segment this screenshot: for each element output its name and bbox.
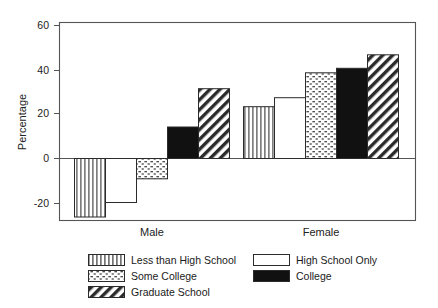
bar-male-less-than-high-school [75, 159, 106, 218]
bar-group-male [75, 89, 230, 217]
y-axis-title: Percentage [16, 94, 28, 150]
legend-swatch-dotted [89, 271, 125, 282]
bar-chart: 60 40 20 0 -20 Percentage [0, 0, 438, 308]
y-axis-ticks [54, 26, 60, 204]
legend-label-0: Less than High School [131, 254, 236, 266]
legend-item-college: College [254, 270, 332, 282]
bar-group-female [244, 55, 399, 159]
legend-item-graduate-school: Graduate School [89, 286, 210, 298]
y-tick-label-60: 60 [37, 19, 49, 31]
bar-female-college [337, 68, 368, 158]
bar-male-college [168, 127, 199, 159]
legend-item-less-than-high-school: Less than High School [89, 254, 237, 266]
legend-swatch-diagonal-hatch [89, 287, 125, 298]
bar-female-less-than-high-school [244, 107, 275, 159]
legend-label-3: High School Only [296, 254, 378, 266]
chart-legend: Less than High School Some College Gradu… [89, 254, 378, 298]
bar-female-graduate-school [368, 55, 399, 159]
bar-male-graduate-school [199, 89, 230, 159]
legend-item-high-school-only: High School Only [254, 254, 378, 266]
legend-label-1: Some College [131, 270, 197, 282]
bar-male-high-school-only [106, 159, 137, 203]
legend-swatch-white [254, 255, 290, 266]
legend-label-2: Graduate School [131, 286, 210, 298]
x-category-label-male: Male [140, 226, 164, 238]
bar-female-some-college [306, 73, 337, 159]
legend-swatch-black [254, 271, 290, 282]
legend-swatch-vertical-stripes [89, 255, 125, 266]
x-category-label-female: Female [303, 226, 340, 238]
legend-item-some-college: Some College [89, 270, 198, 282]
y-tick-label-0: 0 [43, 152, 49, 164]
chart-svg: 60 40 20 0 -20 Percentage [0, 0, 438, 308]
y-tick-label-neg20: -20 [34, 197, 49, 209]
legend-label-4: College [296, 270, 332, 282]
bar-male-some-college [137, 159, 168, 179]
y-tick-label-20: 20 [37, 107, 49, 119]
bar-female-high-school-only [275, 98, 306, 159]
y-tick-label-40: 40 [37, 64, 49, 76]
